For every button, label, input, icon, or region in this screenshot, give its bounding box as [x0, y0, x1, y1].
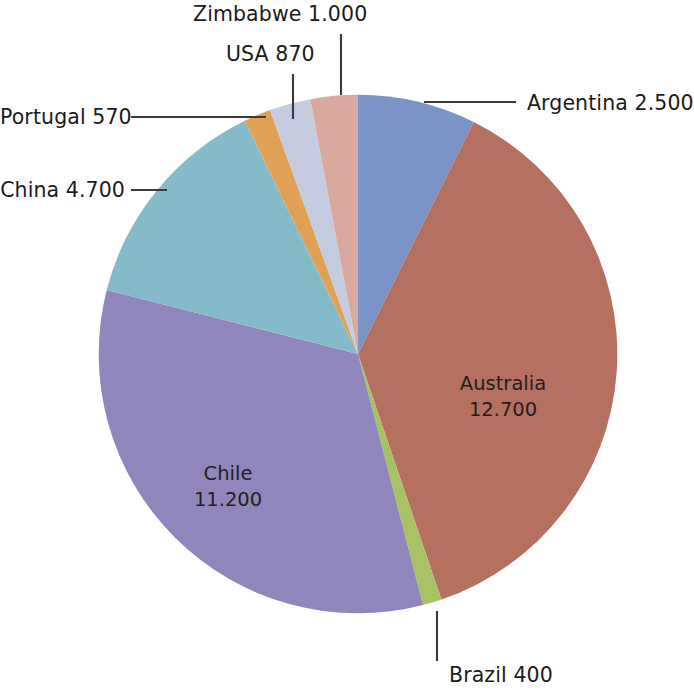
slice-label-brazil: Brazil 400 — [449, 663, 553, 687]
slice-label-australia-value: 12.700 — [423, 397, 583, 423]
slice-label-australia: Australia 12.700 — [423, 371, 583, 422]
slice-label-zimbabwe: Zimbabwe 1.000 — [193, 2, 367, 26]
slice-label-chile: Chile 11.200 — [148, 461, 308, 512]
slice-label-china: China 4.700 — [0, 178, 125, 202]
slice-label-usa: USA 870 — [226, 42, 315, 66]
pie-slices — [0, 0, 617, 613]
slice-label-chile-value: 11.200 — [148, 487, 308, 513]
slice-label-australia-name: Australia — [423, 371, 583, 397]
slice-label-argentina: Argentina 2.500 — [527, 91, 694, 115]
slice-label-chile-name: Chile — [148, 461, 308, 487]
slice-label-portugal: Portugal 570 — [0, 105, 125, 129]
